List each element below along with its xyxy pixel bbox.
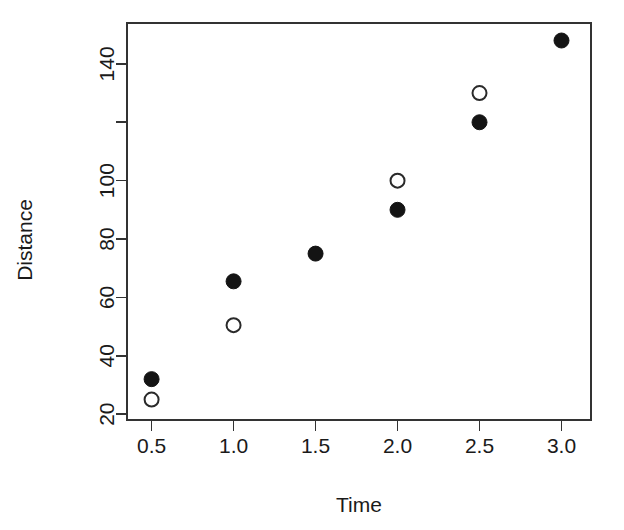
x-tick-label: 1.0 <box>219 434 248 457</box>
y-tick-label: 20 <box>96 402 119 425</box>
x-tick-label: 0.5 <box>137 434 166 457</box>
y-tick-label: 60 <box>96 286 119 309</box>
x-tick-label: 1.5 <box>301 434 330 457</box>
y-tick-label: 40 <box>96 344 119 367</box>
data-point-filled <box>390 202 405 217</box>
y-axis-tick-labels: 20406080100140 <box>96 46 119 425</box>
data-point-open <box>391 174 405 188</box>
y-tick-label: 140 <box>96 46 119 81</box>
data-point-open <box>227 318 241 332</box>
scatter-plot-figure: 0.51.01.52.02.53.0 20406080100140 Time D… <box>0 0 624 530</box>
x-axis-tick-labels: 0.51.01.52.02.53.0 <box>137 434 576 457</box>
y-tick-label: 80 <box>96 227 119 250</box>
plot-box <box>127 23 591 420</box>
data-point-filled <box>554 33 569 48</box>
x-tick-label: 3.0 <box>547 434 576 457</box>
data-points <box>144 33 569 407</box>
data-point-filled <box>472 115 487 130</box>
y-tick-label: 100 <box>96 163 119 198</box>
x-tick-label: 2.0 <box>383 434 412 457</box>
data-point-open <box>145 393 159 407</box>
data-point-filled <box>226 274 241 289</box>
data-point-open <box>473 86 487 100</box>
y-axis-title: Distance <box>13 199 36 281</box>
data-point-filled <box>144 372 159 387</box>
data-point-filled <box>308 246 323 261</box>
x-tick-label: 2.5 <box>465 434 494 457</box>
x-axis-ticks <box>152 420 562 431</box>
plot-frame <box>127 23 591 420</box>
x-axis-title: Time <box>336 493 382 516</box>
plot-canvas: 0.51.01.52.02.53.0 20406080100140 Time D… <box>0 0 624 530</box>
